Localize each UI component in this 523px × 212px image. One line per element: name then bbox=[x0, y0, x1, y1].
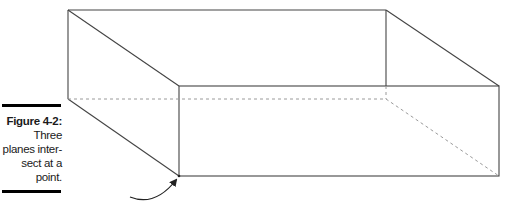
box-diagram bbox=[0, 0, 523, 212]
intersection-point bbox=[178, 175, 181, 178]
arrow-icon bbox=[130, 180, 176, 200]
solid-edges bbox=[68, 10, 499, 176]
hidden-edges bbox=[68, 86, 499, 176]
